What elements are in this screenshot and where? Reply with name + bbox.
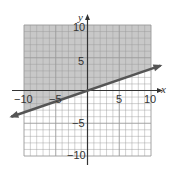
y-tick-label: 10	[73, 22, 85, 33]
x-tick-label: −10	[14, 94, 33, 105]
y-tick-label: −10	[67, 150, 86, 161]
x-tick-label: 10	[144, 94, 156, 105]
x-axis-label: x	[161, 84, 166, 95]
y-tick-label: −5	[72, 118, 85, 129]
x-tick-label: −5	[49, 94, 62, 105]
x-tick-label: 5	[116, 94, 122, 105]
y-tick-label: 5	[78, 56, 84, 67]
coordinate-plane	[0, 0, 176, 170]
